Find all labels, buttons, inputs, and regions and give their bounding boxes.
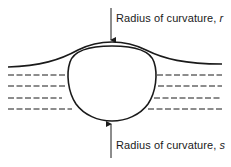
- label-radius-r-variable: r: [220, 12, 224, 24]
- label-radius-s-text: Radius of curvature,: [116, 139, 220, 151]
- bubble-outline: [68, 46, 156, 121]
- label-radius-s: Radius of curvature, s: [116, 139, 225, 151]
- label-radius-r: Radius of curvature, r: [116, 12, 223, 24]
- label-radius-s-variable: s: [220, 139, 226, 151]
- liquid-lines-right: [148, 75, 222, 109]
- liquid-lines-left: [8, 75, 72, 109]
- label-radius-r-text: Radius of curvature,: [116, 12, 220, 24]
